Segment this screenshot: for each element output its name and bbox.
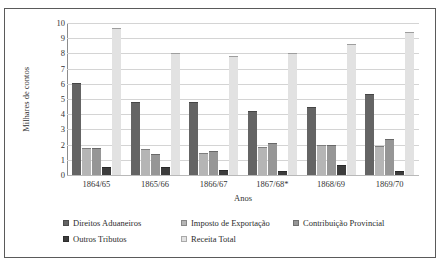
y-axis-tick-label: 0 xyxy=(61,171,65,180)
bar-group xyxy=(302,23,361,175)
legend-swatch-icon xyxy=(181,236,187,242)
y-axis-tick-labels: 109876543210 xyxy=(41,23,65,175)
bar[interactable] xyxy=(229,56,238,175)
legend-item[interactable]: Contribuição Provincial xyxy=(293,218,384,228)
bar-groups xyxy=(67,23,419,175)
y-axis-tick-label: 5 xyxy=(61,95,65,104)
bar[interactable] xyxy=(395,171,404,175)
bar[interactable] xyxy=(189,102,198,175)
y-axis-tick-label: 1 xyxy=(61,156,65,165)
bar[interactable] xyxy=(199,153,208,175)
bar[interactable] xyxy=(161,167,170,175)
bar[interactable] xyxy=(92,148,101,175)
legend-swatch-icon xyxy=(63,220,69,226)
bar[interactable] xyxy=(151,154,160,175)
bar[interactable] xyxy=(248,111,257,175)
plot-area xyxy=(67,23,419,175)
legend-item[interactable]: Receita Total xyxy=(181,234,236,244)
bar[interactable] xyxy=(375,146,384,175)
bar[interactable] xyxy=(317,145,326,175)
chart-legend: Direitos AduaneirosImposto de Exportação… xyxy=(63,215,413,247)
bar[interactable] xyxy=(268,143,277,175)
bar[interactable] xyxy=(327,145,336,175)
x-axis-tick-labels: 1864/651865/661866/671867/68*1868/691869… xyxy=(67,179,419,189)
bar[interactable] xyxy=(337,165,346,175)
bar[interactable] xyxy=(365,94,374,175)
bar[interactable] xyxy=(307,107,316,175)
bar[interactable] xyxy=(347,44,356,175)
legend-row: Outros TributosReceita Total xyxy=(63,231,413,247)
bar[interactable] xyxy=(72,83,81,175)
x-axis-tick-label: 1869/70 xyxy=(360,179,419,189)
legend-swatch-icon xyxy=(63,236,69,242)
bar-group xyxy=(126,23,185,175)
bar[interactable] xyxy=(219,170,228,175)
y-axis-tick-label: 8 xyxy=(61,49,65,58)
gridline xyxy=(67,175,419,176)
bar-group xyxy=(184,23,243,175)
legend-label: Receita Total xyxy=(191,234,236,244)
bar[interactable] xyxy=(131,102,140,175)
bar[interactable] xyxy=(112,28,121,175)
legend-swatch-icon xyxy=(181,220,187,226)
chart-figure: Milhares de contos 109876543210 1864/651… xyxy=(4,8,436,258)
bar-group xyxy=(67,23,126,175)
legend-item[interactable]: Imposto de Exportação xyxy=(181,218,270,228)
legend-item[interactable]: Direitos Aduaneiros xyxy=(63,218,141,228)
x-axis-tick-label: 1866/67 xyxy=(184,179,243,189)
legend-label: Contribuição Provincial xyxy=(303,218,384,228)
y-axis-tick-label: 10 xyxy=(57,19,66,28)
y-axis-title: Milhares de contos xyxy=(19,23,33,175)
y-axis-tick-label: 6 xyxy=(61,80,65,89)
bar[interactable] xyxy=(171,53,180,175)
bar[interactable] xyxy=(141,149,150,175)
legend-item[interactable]: Outros Tributos xyxy=(63,234,127,244)
bar[interactable] xyxy=(385,139,394,175)
y-axis-tick-label: 7 xyxy=(61,64,65,73)
bar[interactable] xyxy=(258,147,267,175)
y-axis-tick-label: 4 xyxy=(61,110,65,119)
bar[interactable] xyxy=(288,53,297,175)
y-axis-tick-label: 3 xyxy=(61,125,65,134)
bar[interactable] xyxy=(278,171,287,175)
bar[interactable] xyxy=(209,151,218,175)
y-axis-tick-label: 9 xyxy=(61,34,65,43)
x-axis-tick-label: 1868/69 xyxy=(302,179,361,189)
bar[interactable] xyxy=(82,148,91,175)
x-axis-tick-label: 1867/68* xyxy=(243,179,302,189)
x-axis-title: Anos xyxy=(67,193,419,203)
y-axis-title-label: Milhares de contos xyxy=(21,67,31,132)
bar-group xyxy=(360,23,419,175)
bar[interactable] xyxy=(405,32,414,175)
legend-label: Direitos Aduaneiros xyxy=(73,218,141,228)
x-axis-tick-label: 1865/66 xyxy=(126,179,185,189)
legend-swatch-icon xyxy=(293,220,299,226)
bar[interactable] xyxy=(102,167,111,175)
legend-label: Imposto de Exportação xyxy=(191,218,270,228)
legend-row: Direitos AduaneirosImposto de Exportação… xyxy=(63,215,413,231)
y-axis-tick-label: 2 xyxy=(61,140,65,149)
bar-group xyxy=(243,23,302,175)
legend-label: Outros Tributos xyxy=(73,234,127,244)
x-axis-tick-label: 1864/65 xyxy=(67,179,126,189)
